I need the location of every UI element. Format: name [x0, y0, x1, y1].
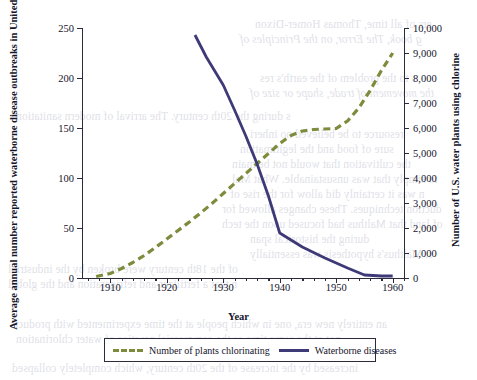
y-axis-right-title-text: Number of U.S. water plants using chlori… [450, 53, 461, 247]
x-tick-minor [133, 278, 134, 281]
x-tick-minor [257, 278, 258, 281]
legend-swatch-dashed-olive-icon [113, 349, 143, 352]
y-tick-right [404, 153, 409, 154]
chart-legend: Number of plants chlorinating Waterborne… [104, 338, 376, 362]
y-tick-right [404, 53, 409, 54]
x-tick-label: 1950 [326, 282, 347, 293]
y-tick-label-left: 150 [58, 123, 74, 134]
y-tick-label-right: 9,000 [413, 48, 437, 59]
x-tick-minor [122, 278, 123, 281]
y-tick-right [404, 253, 409, 254]
series-line [195, 35, 393, 276]
y-tick-right [404, 78, 409, 79]
x-tick-minor [348, 278, 349, 281]
x-tick-minor [212, 278, 213, 281]
y-tick-left [77, 278, 82, 279]
legend-item-plants-chlorinating: Number of plants chlorinating [113, 345, 270, 356]
series-lines [82, 28, 404, 278]
y-tick-right [404, 128, 409, 129]
y-tick-label-left: 100 [58, 173, 74, 184]
y-tick-label-left: 0 [69, 273, 74, 284]
x-tick-minor [246, 278, 247, 281]
y-tick-right [404, 28, 409, 29]
x-tick-minor [381, 278, 382, 281]
x-tick-minor [201, 278, 202, 281]
x-tick-minor [268, 278, 269, 281]
x-tick-minor [325, 278, 326, 281]
x-tick-label: 1940 [269, 282, 290, 293]
y-tick-label-right: 5,000 [413, 148, 437, 159]
y-tick-label-right: 0 [413, 273, 418, 284]
x-tick-label: 1920 [156, 282, 177, 293]
x-tick-label: 1960 [382, 282, 403, 293]
y-tick-right [404, 203, 409, 204]
legend-label: Number of plants chlorinating [149, 345, 270, 356]
y-tick-label-left: 200 [58, 73, 74, 84]
x-tick-label: 1930 [213, 282, 234, 293]
y-tick-label-left: 250 [58, 23, 74, 34]
x-axis-title-text: Year [228, 311, 249, 322]
y-tick-label-left: 50 [64, 223, 75, 234]
series-line [96, 53, 393, 277]
x-tick-minor [359, 278, 360, 281]
y-axis-right-title: Number of U.S. water plants using chlori… [449, 53, 462, 247]
y-tick-label-right: 1,000 [413, 248, 437, 259]
y-tick-right [404, 178, 409, 179]
x-tick-minor [314, 278, 315, 281]
x-tick-minor [291, 278, 292, 281]
x-axis-title: Year [0, 311, 477, 322]
x-tick-minor [155, 278, 156, 281]
x-tick-minor [88, 278, 89, 281]
y-tick-label-right: 10,000 [413, 23, 442, 34]
x-axis-line [82, 278, 404, 279]
y-tick-right [404, 228, 409, 229]
y-tick-right [404, 103, 409, 104]
y-tick-label-right: 8,000 [413, 73, 437, 84]
x-tick-minor [235, 278, 236, 281]
y-tick-label-right: 2,000 [413, 223, 437, 234]
x-tick-label: 1910 [100, 282, 121, 293]
x-tick-minor [189, 278, 190, 281]
y-tick-label-right: 3,000 [413, 198, 437, 209]
x-tick-minor [404, 278, 405, 281]
legend-label: Waterborne diseases [315, 345, 397, 356]
x-tick-minor [144, 278, 145, 281]
plot-area: 05010015020025001,0002,0003,0004,0005,00… [82, 28, 404, 278]
y-axis-left-title: Average annual number reported waterborn… [7, 0, 20, 330]
x-tick-minor [99, 278, 100, 281]
chart-page: ers of all time, Thomas Homer-Dixon g bo… [0, 0, 477, 380]
legend-swatch-solid-purple-icon [279, 349, 309, 352]
x-tick-minor [370, 278, 371, 281]
y-tick-label-right: 7,000 [413, 98, 437, 109]
legend-item-waterborne-diseases: Waterborne diseases [279, 345, 397, 356]
y-tick-label-right: 4,000 [413, 173, 437, 184]
y-axis-left-title-text: Average annual number reported waterborn… [8, 0, 19, 330]
y-tick-label-right: 6,000 [413, 123, 437, 134]
x-tick-minor [302, 278, 303, 281]
x-tick-minor [178, 278, 179, 281]
ghost-line: increased by the increase of the 20th ce… [12, 362, 358, 374]
